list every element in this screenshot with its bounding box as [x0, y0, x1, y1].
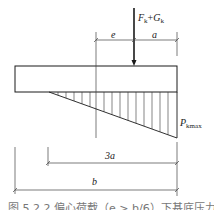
eccentric-load-foundation-diagram: Fk+Gk e a Pkmax [0, 0, 214, 210]
load-arrow-icon [132, 8, 137, 66]
pressure-max-label: Pkmax [179, 117, 202, 130]
dim-a-label: a [152, 29, 157, 40]
force-label: Fk+Gk [137, 12, 164, 25]
dimension-e-a [94, 32, 179, 138]
dim-3a-label: 3a [104, 150, 115, 161]
dim-e-label: e [111, 29, 116, 40]
pressure-distribution [49, 92, 177, 138]
dim-b-label: b [92, 176, 97, 187]
figure-caption: 图 5.2.2 偏心荷载（e > b/6）下基底压力计算示意 [8, 201, 214, 210]
